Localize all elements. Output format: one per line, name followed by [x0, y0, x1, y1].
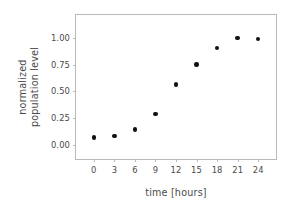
y-axis-title: normalized population level	[14, 14, 44, 160]
x-tick-mark	[258, 159, 259, 162]
x-tick-label: 21	[232, 165, 243, 175]
x-tick-label: 3	[112, 165, 117, 175]
y-tick-label: 0.75	[51, 60, 70, 70]
x-axis-title: time [hours]	[75, 187, 277, 198]
x-tick-mark	[238, 159, 239, 162]
x-tick-mark	[94, 159, 95, 162]
y-tick-label: 0.50	[51, 86, 70, 96]
data-point	[92, 135, 96, 139]
x-tick-mark	[135, 159, 136, 162]
scatter-series	[76, 15, 276, 159]
y-tick-mark	[73, 145, 76, 146]
x-tick-label: 18	[212, 165, 223, 175]
y-axis-title-line-1: normalized	[17, 59, 29, 114]
y-tick-mark	[73, 118, 76, 119]
data-point	[174, 82, 178, 86]
y-tick-label: 0.25	[51, 113, 70, 123]
data-point	[194, 62, 198, 66]
x-tick-mark	[155, 159, 156, 162]
y-tick-mark	[73, 91, 76, 92]
y-tick-mark	[73, 38, 76, 39]
x-tick-mark	[176, 159, 177, 162]
data-point	[133, 127, 137, 131]
x-tick-mark	[217, 159, 218, 162]
y-tick-label: 0.00	[51, 140, 70, 150]
y-axis-title-line-2: population level	[29, 47, 41, 127]
x-tick-label: 24	[253, 165, 264, 175]
x-tick-label: 12	[171, 165, 182, 175]
x-tick-mark	[197, 159, 198, 162]
plot-area: 0.000.250.500.751.0003691215182124	[75, 14, 277, 160]
x-tick-label: 15	[191, 165, 202, 175]
chart-figure: 0.000.250.500.751.0003691215182124 time …	[0, 0, 296, 215]
data-point	[235, 36, 239, 40]
data-point	[256, 37, 260, 41]
x-tick-label: 6	[132, 165, 137, 175]
x-tick-mark	[114, 159, 115, 162]
data-point	[153, 112, 157, 116]
y-tick-mark	[73, 65, 76, 66]
y-tick-label: 1.00	[51, 33, 70, 43]
x-tick-label: 0	[91, 165, 96, 175]
x-tick-label: 9	[153, 165, 158, 175]
data-point	[215, 46, 219, 50]
data-point	[112, 134, 116, 138]
